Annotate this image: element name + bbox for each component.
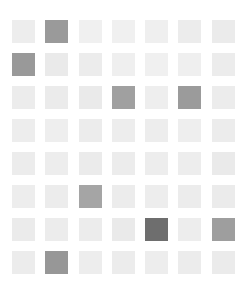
heatmap-cell: [45, 251, 68, 274]
heatmap-cell: [212, 152, 235, 175]
heatmap-cell: [12, 185, 35, 208]
heatmap-cell: [79, 20, 102, 43]
heatmap-cell: [212, 218, 235, 241]
heatmap-cell: [79, 86, 102, 109]
heatmap-cell: [45, 218, 68, 241]
heatmap-cell: [45, 20, 68, 43]
heatmap-cell: [79, 251, 102, 274]
heatmap-cell: [178, 218, 201, 241]
heatmap-cell: [12, 20, 35, 43]
heatmap-cell: [212, 251, 235, 274]
heatmap-grid: [12, 20, 235, 274]
heatmap-cell: [145, 20, 168, 43]
heatmap-cell: [112, 86, 135, 109]
heatmap-cell: [212, 53, 235, 76]
heatmap-cell: [112, 152, 135, 175]
heatmap-cell: [212, 20, 235, 43]
heatmap-cell: [145, 152, 168, 175]
heatmap-chart: [0, 0, 242, 291]
heatmap-cell: [45, 53, 68, 76]
heatmap-cell: [178, 86, 201, 109]
heatmap-cell: [112, 20, 135, 43]
heatmap-cell: [178, 53, 201, 76]
heatmap-cell: [12, 53, 35, 76]
heatmap-cell: [112, 218, 135, 241]
heatmap-cell: [12, 86, 35, 109]
heatmap-cell: [45, 185, 68, 208]
heatmap-cell: [145, 86, 168, 109]
heatmap-cell: [145, 218, 168, 241]
heatmap-cell: [145, 53, 168, 76]
heatmap-cell: [112, 119, 135, 142]
heatmap-cell: [112, 251, 135, 274]
heatmap-cell: [178, 251, 201, 274]
heatmap-cell: [145, 119, 168, 142]
heatmap-cell: [212, 119, 235, 142]
heatmap-cell: [45, 119, 68, 142]
heatmap-cell: [145, 251, 168, 274]
heatmap-cell: [112, 185, 135, 208]
heatmap-cell: [79, 185, 102, 208]
heatmap-cell: [178, 119, 201, 142]
heatmap-cell: [212, 86, 235, 109]
heatmap-cell: [178, 152, 201, 175]
heatmap-cell: [12, 119, 35, 142]
heatmap-cell: [212, 185, 235, 208]
heatmap-cell: [79, 119, 102, 142]
heatmap-cell: [12, 152, 35, 175]
heatmap-cell: [178, 20, 201, 43]
heatmap-cell: [112, 53, 135, 76]
heatmap-cell: [79, 218, 102, 241]
heatmap-cell: [45, 152, 68, 175]
heatmap-cell: [178, 185, 201, 208]
heatmap-cell: [12, 218, 35, 241]
heatmap-cell: [79, 152, 102, 175]
heatmap-cell: [12, 251, 35, 274]
heatmap-cell: [45, 86, 68, 109]
heatmap-cell: [79, 53, 102, 76]
heatmap-cell: [145, 185, 168, 208]
